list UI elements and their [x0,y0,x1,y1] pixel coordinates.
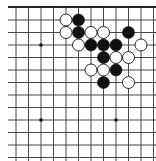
black-stone [110,64,122,76]
black-stone [98,52,110,64]
black-stone [73,14,85,26]
white-stone [60,27,72,39]
black-stone [123,27,135,39]
white-stone [73,39,85,51]
black-stone [73,27,85,39]
white-stone [60,14,72,26]
star-point [39,43,43,47]
white-stone [85,27,97,39]
black-stone [98,39,110,51]
black-stone [85,39,97,51]
star-point [39,118,43,122]
white-stone [123,77,135,89]
white-stone [110,52,122,64]
black-stone [110,39,122,51]
star-point [114,118,118,122]
white-stone [98,64,110,76]
white-stone [98,27,110,39]
white-stone [123,52,135,64]
black-stone [98,77,110,89]
go-board[interactable] [0,0,156,161]
white-stone [85,64,97,76]
white-stone [135,39,147,51]
